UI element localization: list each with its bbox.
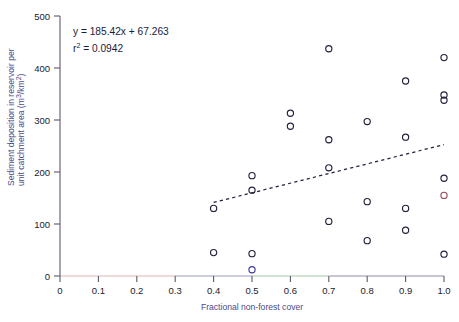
y-tick-label: 0 — [45, 271, 50, 282]
y-tick-label: 100 — [34, 219, 50, 230]
x-tick-label: 0.6 — [284, 285, 297, 296]
x-axis-title: Fractional non-forest cover — [201, 302, 303, 312]
x-tick-label: 0 — [57, 285, 62, 296]
x-tick-label: 0.9 — [399, 285, 412, 296]
y-tick-label: 400 — [34, 63, 50, 74]
scatter-chart: 500 400 300 200 100 0 0 0.1 0.2 0.3 0.4 … — [0, 0, 459, 322]
x-tick-label: 0.5 — [245, 285, 258, 296]
chart-background — [0, 0, 459, 322]
y-tick-label: 200 — [34, 167, 50, 178]
x-tick-label: 0.7 — [322, 285, 335, 296]
y-axis-title-line2: unit catchment area (m3/km2) — [15, 73, 26, 186]
y-tick-label: 300 — [34, 115, 50, 126]
x-tick-label: 0.8 — [361, 285, 374, 296]
y-axis-title-line1: Sediment deposition in reservoir per — [6, 48, 16, 186]
x-tick-label: 0.3 — [169, 285, 182, 296]
y-tick-label: 500 — [34, 11, 50, 22]
x-tick-label: 0.1 — [92, 285, 105, 296]
x-tick-label: 1.0 — [437, 285, 450, 296]
x-tick-label: 0.4 — [207, 285, 220, 296]
r-squared-value: r2 = 0.0942 — [73, 42, 123, 54]
x-tick-label: 0.2 — [130, 285, 143, 296]
regression-equation: y = 185.42x + 67.263 — [73, 26, 169, 37]
